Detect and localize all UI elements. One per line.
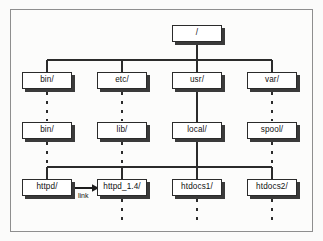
- node-httpd-1-4[interactable]: httpd_1.4/: [97, 179, 147, 196]
- link-annotation-label: link: [78, 192, 89, 199]
- node-httpd-1-4-label: httpd_1.4/: [103, 183, 140, 191]
- node-lib[interactable]: lib/: [97, 122, 147, 139]
- node-htdocs1[interactable]: htdocs1/: [172, 179, 222, 196]
- node-var-label: var/: [265, 76, 279, 84]
- node-var[interactable]: var/: [247, 72, 297, 89]
- node-root-label: /: [196, 29, 198, 37]
- connector-layer: [0, 0, 323, 241]
- node-usr-bin-label: bin/: [40, 126, 54, 134]
- node-etc[interactable]: etc/: [97, 72, 147, 89]
- node-local-label: local/: [187, 126, 207, 134]
- node-httpd[interactable]: httpd/: [22, 179, 72, 196]
- node-lib-label: lib/: [117, 126, 128, 134]
- figure-canvas: / bin/ etc/ usr/ var/ bin/ lib/ local/ s…: [0, 0, 323, 241]
- node-spool[interactable]: spool/: [247, 122, 297, 139]
- node-bin-label: bin/: [40, 76, 54, 84]
- node-htdocs2[interactable]: htdocs2/: [247, 179, 297, 196]
- node-usr-bin[interactable]: bin/: [22, 122, 72, 139]
- node-spool-label: spool/: [261, 126, 283, 134]
- node-root[interactable]: /: [172, 25, 222, 42]
- node-etc-label: etc/: [115, 76, 129, 84]
- node-htdocs1-label: htdocs1/: [181, 183, 213, 191]
- node-usr[interactable]: usr/: [172, 72, 222, 89]
- node-usr-label: usr/: [190, 76, 204, 84]
- node-bin[interactable]: bin/: [22, 72, 72, 89]
- node-htdocs2-label: htdocs2/: [256, 183, 288, 191]
- node-httpd-label: httpd/: [36, 183, 57, 191]
- node-local[interactable]: local/: [172, 122, 222, 139]
- link-arrow-icon: [73, 184, 99, 192]
